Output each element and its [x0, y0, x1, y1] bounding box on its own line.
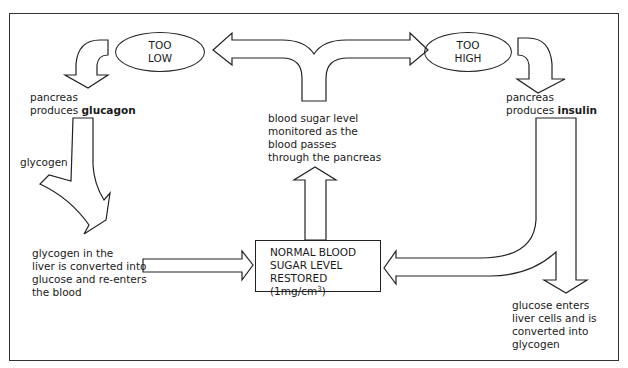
too-low-oval: TOO LOW: [115, 32, 205, 72]
too-low-line1: TOO: [149, 39, 172, 52]
monitor-text: blood sugar level monitored as the blood…: [268, 112, 381, 164]
insulin-split-arrow-icon: [384, 118, 587, 293]
arrow-right-to-normal-icon: [143, 251, 253, 280]
split-arrow-icon: [213, 33, 428, 101]
too-high-oval: TOO HIGH: [424, 32, 512, 72]
glycogen-arrow-icon: [40, 118, 110, 234]
glycogen-label: glycogen: [20, 156, 68, 169]
too-high-line2: HIGH: [454, 52, 481, 65]
curved-arrow-down-left-icon: [65, 40, 108, 88]
too-high-line1: TOO: [457, 39, 480, 52]
liver-conversion-text: glycogen in the liver is converted into …: [32, 247, 147, 299]
normal-level-box: NORMAL BLOOD SUGAR LEVEL RESTORED (1mg/c…: [255, 240, 381, 292]
too-low-line2: LOW: [148, 52, 172, 65]
left-pancreas-label: pancreas produces glucagon: [30, 91, 136, 117]
glucagon-term: glucagon: [82, 104, 136, 116]
arrow-up-to-monitor-icon: [294, 167, 336, 240]
curved-arrow-down-right-icon: [517, 38, 565, 93]
glucose-to-glycogen-text: glucose enters liver cells and is conver…: [512, 299, 597, 351]
insulin-term: insulin: [558, 104, 597, 116]
right-pancreas-label: pancreas produces insulin: [506, 91, 597, 117]
